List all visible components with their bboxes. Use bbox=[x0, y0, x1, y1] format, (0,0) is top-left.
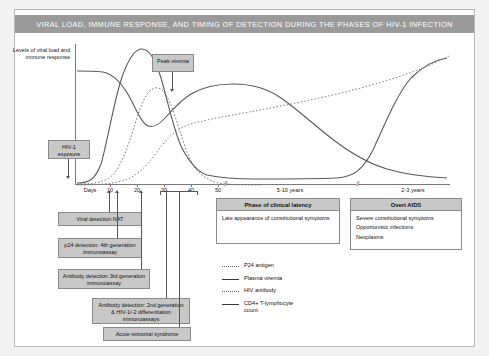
detection-box-antibody-2nd-label: Antibody detection: 2nd generation & HIV… bbox=[98, 302, 183, 322]
hiv-exposure-connector bbox=[68, 159, 69, 176]
x-tick-label-20: 20 bbox=[129, 187, 145, 193]
curves-svg bbox=[75, 44, 450, 185]
chart-legend: P24 antigen Plasma viremia HIV antibody … bbox=[222, 262, 342, 319]
legend-label-cd4-count: CD4+ T-lymphocyte count bbox=[244, 300, 306, 314]
y-axis-label: Levels of viral load and immune response bbox=[8, 47, 70, 61]
legend-dotted-line-icon bbox=[222, 264, 239, 270]
series-p24-antigen bbox=[77, 88, 261, 185]
page-title: VIRAL LOAD, IMMUNE RESPONSE, AND TIMING … bbox=[36, 20, 453, 29]
phase-item-aids-0: Severe constitutional symptoms bbox=[356, 215, 456, 222]
phase-item-latency-0: Late appearance of constitutional sympto… bbox=[222, 215, 334, 222]
hiv-exposure-label: HIV-1 exposure bbox=[58, 144, 81, 157]
ars-bracket-left-tip bbox=[160, 191, 161, 195]
legend-solid-line-icon bbox=[222, 277, 239, 283]
hiv-exposure-arrowhead bbox=[66, 176, 70, 179]
hiv-exposure-callout: HIV-1 exposure bbox=[48, 140, 90, 159]
phase-item-aids-1: Opportunistic infections bbox=[356, 224, 456, 231]
ars-connector bbox=[179, 191, 180, 327]
detection-box-viral-nat: Viral detection NAT bbox=[58, 212, 142, 226]
phase-item-aids-2: Neoplasms bbox=[356, 234, 456, 241]
series-plasma-viremia bbox=[77, 49, 447, 183]
peak-viremia-connector bbox=[172, 72, 173, 89]
legend-item-hiv-antibody: HIV antibody bbox=[222, 287, 342, 294]
detection-box-acute-retroviral-syndrome-label: Acute retroviral syndrome bbox=[116, 331, 179, 337]
ab2-connector bbox=[166, 190, 167, 298]
legend-solid-line-icon-2 bbox=[222, 302, 239, 308]
detection-box-p24: p24 detection: 4th generation immunoassa… bbox=[58, 238, 142, 258]
ab3-connector bbox=[141, 193, 142, 269]
phase-panel-clinical-latency-body: Late appearance of constitutional sympto… bbox=[217, 211, 339, 228]
phase-panel-overt-aids-title: Overt AIDS bbox=[351, 199, 461, 211]
legend-dotted-line-icon-2 bbox=[222, 289, 239, 295]
chart-plot-area bbox=[75, 44, 450, 185]
peak-viremia-label: Peak viremia bbox=[157, 58, 189, 64]
phase-panel-clinical-latency: Phase of clinical latency Late appearanc… bbox=[216, 198, 340, 244]
phase-panel-overt-aids-body: Severe constitutional symptoms Opportuni… bbox=[351, 211, 461, 247]
p24-connector bbox=[117, 193, 118, 238]
x-range-label-latency: 5-10 years bbox=[250, 187, 330, 193]
figure-root: VIRAL LOAD, IMMUNE RESPONSE, AND TIMING … bbox=[0, 0, 489, 356]
peak-viremia-callout: Peak viremia bbox=[152, 54, 194, 72]
x-tick-label-30: 30 bbox=[156, 187, 172, 193]
peak-viremia-arrowhead bbox=[170, 89, 174, 92]
detection-box-antibody-2nd: Antibody detection: 2nd generation & HIV… bbox=[92, 298, 190, 324]
legend-item-cd4-count: CD4+ T-lymphocyte count bbox=[222, 300, 342, 314]
series-cd4-count bbox=[77, 71, 447, 178]
series-hiv-antibody bbox=[77, 56, 449, 185]
legend-label-hiv-antibody: HIV antibody bbox=[244, 287, 276, 294]
phase-panel-overt-aids: Overt AIDS Severe constitutional symptom… bbox=[350, 198, 462, 250]
legend-label-plasma-viremia: Plasma viremia bbox=[244, 275, 282, 282]
legend-item-plasma-viremia: Plasma viremia bbox=[222, 275, 342, 282]
ars-bracket-right-tip bbox=[197, 191, 198, 195]
viral-nat-connector bbox=[109, 193, 110, 212]
x-range-label-aids: 2-3 years bbox=[378, 187, 448, 193]
legend-label-p24-antigen: P24 antigen bbox=[244, 262, 274, 269]
detection-box-acute-retroviral-syndrome: Acute retroviral syndrome bbox=[103, 327, 191, 341]
detection-box-antibody-3rd-label: Antibody detection 3rd generation immuno… bbox=[63, 273, 145, 286]
detection-box-p24-label: p24 detection: 4th generation immunoassa… bbox=[64, 242, 135, 255]
legend-item-p24-antigen: P24 antigen bbox=[222, 262, 342, 269]
detection-box-antibody-3rd: Antibody detection 3rd generation immuno… bbox=[58, 269, 150, 289]
phase-panel-clinical-latency-title: Phase of clinical latency bbox=[217, 199, 339, 211]
figure-title-bar: VIRAL LOAD, IMMUNE RESPONSE, AND TIMING … bbox=[15, 15, 474, 33]
x-axis-unit-label: Days bbox=[78, 187, 102, 193]
